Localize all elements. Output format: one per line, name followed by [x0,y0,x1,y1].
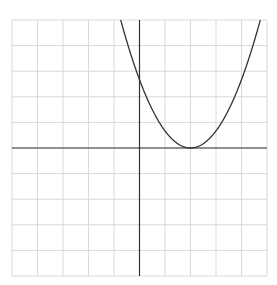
parabola-graph [0,0,277,285]
axes [12,20,267,276]
